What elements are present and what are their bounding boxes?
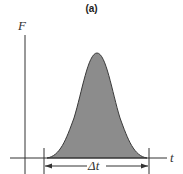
pulse-area	[47, 53, 147, 158]
force-pulse-diagram	[0, 0, 183, 174]
diagram-root: (a) F t Δt	[0, 0, 183, 174]
y-axis-label: F	[18, 18, 26, 34]
arrowhead-right-icon	[141, 164, 148, 169]
x-axis-label: t	[170, 150, 174, 166]
interval-label: Δt	[88, 158, 99, 174]
arrowhead-left-icon	[45, 164, 52, 169]
